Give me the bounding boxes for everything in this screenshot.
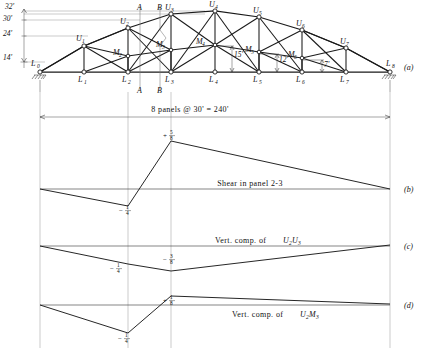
figure-root: 32' 30' 24' 14'	[0, 0, 430, 352]
node-label-U4-sub: 4	[215, 4, 218, 10]
value-d-neg-den: 4	[125, 338, 128, 344]
value-label-b-positive: + 5 8	[163, 129, 175, 141]
node-label-U7-sub: 7	[346, 41, 349, 47]
node-label-L5: L	[252, 75, 258, 84]
value-c-peak-den: 8	[170, 259, 173, 265]
node-label-L8: L	[385, 59, 391, 68]
node-label-L6: L	[295, 75, 301, 84]
figure-tag-c: (c)	[404, 242, 413, 251]
node-label-L3: L	[164, 75, 170, 84]
interior-dim-15: 15'	[234, 50, 244, 59]
height-dim-14: 14'	[3, 53, 13, 62]
node-label-L7: L	[339, 75, 345, 84]
value-label-c-left: − 1 4	[110, 262, 122, 274]
node-label-L1: L	[77, 75, 83, 84]
value-b-neg-den: 4	[126, 210, 129, 216]
value-d-pos-sign: +	[163, 297, 167, 305]
value-c-left-sign: −	[110, 265, 114, 273]
influence-line-c: − 1 4 − 3 8 Vert. comp. of U 2 U 3 (c)	[40, 236, 413, 274]
node-label-M3-sub: 3	[161, 44, 165, 50]
node-label-U6-sub: 6	[302, 23, 305, 29]
section-label-A-top: A	[136, 3, 142, 12]
node-label-L6-sub: 6	[302, 79, 305, 85]
node-label-U2-sub: 2	[126, 21, 129, 27]
figure-tag-d: (d)	[404, 301, 414, 310]
node-label-U1-sub: 1	[82, 38, 85, 44]
interior-dimension-marks	[215, 46, 324, 72]
section-label-B-bottom: B	[157, 86, 162, 95]
value-label-c-peak: − 3 8	[163, 253, 175, 265]
figure-tag-a: (a)	[404, 63, 414, 72]
node-label-U3-sub: 3	[170, 7, 174, 13]
value-d-pos-den: 8	[170, 300, 173, 306]
height-dim-30: 30'	[2, 14, 13, 23]
span-dimension-label: 8 panels @ 30' = 240'	[151, 105, 229, 114]
height-dim-24: 24'	[3, 29, 13, 38]
truss-web-left	[40, 14, 171, 72]
figure-tag-b: (b)	[404, 185, 414, 194]
influence-line-d: + 1 8 − 1 4 Vert. comp. of U 2 M 3 (d)	[40, 294, 414, 344]
node-label-L2-sub: 2	[128, 79, 131, 85]
il-curve-vert-comp-u2m3	[40, 296, 390, 333]
node-label-L8-sub: 8	[392, 63, 395, 69]
caption-d-prefix: Vert. comp. of	[232, 310, 283, 319]
interior-dim-7: 7'	[324, 60, 330, 69]
support-right	[382, 75, 396, 92]
height-dim-32: 32'	[4, 2, 15, 11]
truss-elevation: 32' 30' 24' 14'	[2, 0, 414, 95]
node-label-L4: L	[208, 75, 214, 84]
span-dimension: 8 panels @ 30' = 240'	[40, 92, 390, 348]
node-label-L7-sub: 7	[346, 79, 349, 85]
section-label-B-top: B	[157, 3, 162, 12]
node-label-L5-sub: 5	[259, 79, 262, 85]
support-left	[32, 75, 46, 92]
caption-c-prefix: Vert. comp. of	[215, 236, 266, 245]
node-label-L0: L	[30, 59, 36, 68]
value-b-neg-sign: −	[119, 207, 123, 215]
node-label-L0-sub: 0	[37, 63, 40, 69]
caption-d-member-2-sub: 3	[315, 314, 319, 320]
node-label-M5-sub: 5	[251, 49, 254, 55]
caption-b: Shear in panel 2-3	[217, 179, 283, 188]
top-node-labels: U 1 U 2 U 3 U 4 U 5 U 6 U 7	[76, 0, 349, 47]
node-label-M2-sub: 2	[119, 52, 122, 58]
value-c-peak-sign: −	[163, 256, 167, 264]
section-label-A-bottom: A	[136, 86, 142, 95]
influence-line-b: + 5 8 − 1 4 Shear in panel 2-3 (b)	[40, 129, 414, 216]
node-label-U5-sub: 5	[259, 10, 262, 16]
section-line-A: A A	[136, 3, 142, 95]
node-label-M6-sub: 6	[294, 54, 297, 60]
value-b-pos-sign: +	[163, 132, 167, 140]
node-label-M4-sub: 4	[202, 41, 205, 47]
value-c-left-den: 4	[117, 268, 120, 274]
node-label-L1-sub: 1	[84, 79, 87, 85]
il-curve-shear-panel-2-3	[40, 141, 390, 206]
il-curve-vert-comp-u2u3	[40, 245, 390, 271]
node-label-L3-sub: 3	[170, 79, 174, 85]
caption-c-member-2-sub: 3	[297, 240, 301, 246]
node-label-L4-sub: 4	[215, 79, 218, 85]
value-d-neg-sign: −	[118, 335, 122, 343]
node-label-L2: L	[121, 75, 127, 84]
value-b-pos-den: 8	[170, 135, 173, 141]
